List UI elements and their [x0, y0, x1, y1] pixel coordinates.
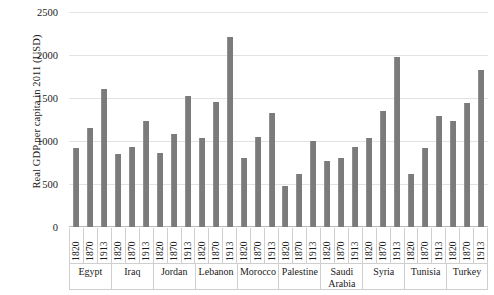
- bar: [282, 186, 288, 227]
- bar: [241, 158, 247, 227]
- x-axis-year-label: 1820: [281, 241, 291, 261]
- x-axis-country-cell: Palestine: [278, 264, 320, 290]
- x-axis-country-label: Lebanon: [199, 266, 234, 278]
- bars-layer: [69, 12, 488, 227]
- x-axis-year-cell: 1820: [278, 228, 292, 264]
- x-axis-country-label: Morocco: [240, 266, 276, 278]
- x-axis-year-label: 1913: [183, 241, 193, 261]
- bar: [408, 174, 414, 227]
- x-axis-year-cell: 1820: [111, 228, 125, 264]
- x-axis-country-cell: Turkey: [446, 264, 488, 290]
- bar: [436, 116, 442, 227]
- x-axis-year-label: 1913: [392, 241, 402, 261]
- x-axis-year-cell: 1913: [473, 228, 488, 264]
- x-axis-year-cell: 1870: [125, 228, 139, 264]
- bar: [450, 121, 456, 227]
- x-axis-year-cell: 1820: [362, 228, 376, 264]
- bar: [352, 147, 358, 227]
- bar: [366, 138, 372, 227]
- bar: [185, 96, 191, 227]
- bar: [478, 70, 484, 227]
- x-axis-year-label: 1870: [211, 241, 221, 261]
- bar: [324, 161, 330, 227]
- x-axis-country-cell: Lebanon: [195, 264, 237, 290]
- bar: [199, 138, 205, 227]
- x-axis-year-cell: 1820: [445, 228, 459, 264]
- x-axis-year-cell: 1913: [139, 228, 153, 264]
- x-axis-year-label: 1913: [141, 241, 151, 261]
- x-axis-year-cell: 1870: [292, 228, 306, 264]
- x-axis-year-cell: 1870: [459, 228, 473, 264]
- bar: [101, 89, 107, 227]
- bar: [227, 37, 233, 227]
- x-axis-year-label: 1913: [267, 241, 277, 261]
- bar-chart: Real GDP per capita in 2011 (USD) 250020…: [0, 0, 494, 295]
- plot-area: [69, 12, 488, 227]
- y-tick-label: 0: [53, 222, 58, 233]
- x-axis-year-cell: 1820: [153, 228, 167, 264]
- bar: [310, 141, 316, 227]
- x-axis-country-label: Egypt: [79, 266, 103, 278]
- x-axis-year-cell: 1913: [264, 228, 278, 264]
- x-axis-year-label: 1913: [225, 241, 235, 261]
- x-axis-year-label: 1913: [476, 241, 486, 261]
- x-axis-year-cell: 1870: [83, 228, 97, 264]
- x-axis-year-label: 1913: [350, 241, 360, 261]
- y-tick-label: 2500: [37, 7, 58, 18]
- bar: [115, 154, 121, 227]
- y-tick-label: 1500: [37, 93, 58, 104]
- x-axis-year-cell: 1913: [431, 228, 445, 264]
- x-axis-country-label: Syria: [373, 266, 394, 278]
- x-axis-year-cell: 1913: [222, 228, 236, 264]
- x-axis-year-cell: 1913: [390, 228, 404, 264]
- x-axis-country-label: Turkey: [453, 266, 482, 278]
- bar: [464, 103, 470, 227]
- x-axis-country-cell: Tunisia: [404, 264, 446, 290]
- x-axis-year-cell: 1820: [236, 228, 250, 264]
- x-axis-country-label: Iraq: [124, 266, 140, 278]
- x-axis-year-cell: 1870: [334, 228, 348, 264]
- x-axis-year-label: 1820: [113, 241, 123, 261]
- x-axis-country-cell: Saudi Arabia: [320, 264, 362, 290]
- x-axis-year-cell: 1913: [97, 228, 111, 264]
- x-axis-year-label: 1820: [406, 241, 416, 261]
- x-axis-country-label: Jordan: [161, 266, 188, 278]
- x-axis-year-label: 1913: [99, 241, 109, 261]
- x-axis-country-label: Palestine: [282, 266, 318, 278]
- bar: [129, 147, 135, 227]
- x-axis-year-label: 1820: [448, 241, 458, 261]
- x-axis-year-label: 1820: [364, 241, 374, 261]
- x-axis-country-cell: Egypt: [69, 264, 111, 290]
- x-axis-year-label: 1870: [462, 241, 472, 261]
- x-axis-country-label: Tunisia: [411, 266, 441, 278]
- x-axis-country-cell: Iraq: [111, 264, 153, 290]
- x-axis-year-label: 1870: [169, 241, 179, 261]
- x-axis-year-cell: 1820: [320, 228, 334, 264]
- x-axis-year-cell: 1913: [181, 228, 195, 264]
- x-axis-year-label: 1870: [378, 241, 388, 261]
- bar: [87, 128, 93, 227]
- x-axis-year-label: 1870: [127, 241, 137, 261]
- x-axis-country-cell: Jordan: [153, 264, 195, 290]
- x-axis-year-cell: 1870: [417, 228, 431, 264]
- y-tick-label: 1000: [37, 136, 58, 147]
- x-axis-year-label: 1870: [294, 241, 304, 261]
- bar: [157, 153, 163, 227]
- x-axis-label-table: 1820187019131820187019131820187019131820…: [69, 228, 488, 290]
- x-axis-year-cell: 1870: [376, 228, 390, 264]
- x-axis-year-cell: 1820: [69, 228, 83, 264]
- bar: [255, 137, 261, 227]
- x-axis-year-cell: 1820: [404, 228, 418, 264]
- x-axis-country-cell: Syria: [362, 264, 404, 290]
- x-axis-year-label: 1870: [253, 241, 263, 261]
- y-tick-label: 2000: [37, 50, 58, 61]
- x-axis-year-label: 1913: [308, 241, 318, 261]
- y-tick-label: 500: [42, 179, 58, 190]
- x-axis-year-label: 1913: [434, 241, 444, 261]
- bar: [73, 148, 79, 227]
- x-axis-country-label: Saudi Arabia: [321, 266, 362, 289]
- x-axis-year-cell: 1913: [306, 228, 320, 264]
- x-axis-year-label: 1820: [239, 241, 249, 261]
- x-axis-year-label: 1870: [85, 241, 95, 261]
- x-axis-year-label: 1870: [336, 241, 346, 261]
